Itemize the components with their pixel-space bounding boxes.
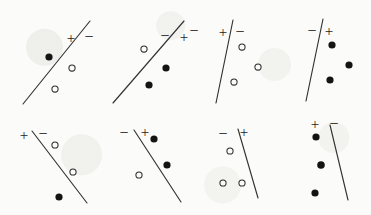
data-point-filled-marker xyxy=(55,193,62,200)
data-point-filled-marker xyxy=(328,41,335,48)
negative-side-label: − xyxy=(189,23,198,39)
negative-side-label: − xyxy=(218,126,227,142)
positive-side-label: + xyxy=(311,117,319,132)
decision-panel xyxy=(134,130,181,202)
positive-side-label: + xyxy=(219,25,227,40)
data-point-filled-marker xyxy=(45,53,52,60)
data-point-open-marker xyxy=(69,65,75,71)
positive-side-label: + xyxy=(141,125,149,140)
decision-boundary-line xyxy=(113,21,184,103)
positive-side-label: + xyxy=(325,24,333,39)
positive-side-label: + xyxy=(240,125,248,140)
negative-side-label: − xyxy=(160,28,169,44)
data-point-open-marker xyxy=(220,180,226,186)
decision-boundary-line xyxy=(134,130,181,202)
data-point-open-marker xyxy=(136,172,142,178)
data-point-open-marker xyxy=(239,44,245,50)
data-point-open-marker xyxy=(231,79,237,85)
data-point-filled-marker xyxy=(311,189,318,196)
data-point-open-marker xyxy=(255,64,261,70)
positive-side-label: + xyxy=(180,30,188,45)
decision-panel xyxy=(23,21,90,104)
data-point-filled-marker xyxy=(150,135,157,142)
data-point-filled-marker xyxy=(163,161,170,168)
data-point-open-marker xyxy=(239,180,245,186)
data-point-open-marker xyxy=(52,86,58,92)
decision-panel xyxy=(113,21,184,103)
positive-side-label: + xyxy=(67,31,75,46)
decision-panel xyxy=(311,125,348,200)
linear-classifier-figure: +−−++−−+−+−−+−++− xyxy=(0,0,371,215)
data-point-filled-marker xyxy=(317,161,325,169)
positive-side-label: + xyxy=(20,128,28,143)
data-point-filled-marker xyxy=(312,133,319,140)
data-point-open-marker xyxy=(141,46,147,52)
data-point-filled-marker xyxy=(162,64,169,71)
data-point-filled-marker xyxy=(326,76,333,83)
negative-side-label: − xyxy=(329,116,338,132)
negative-side-label: − xyxy=(307,23,316,39)
negative-side-label: − xyxy=(84,29,93,45)
data-point-open-marker xyxy=(227,148,233,154)
decision-boundary-line xyxy=(330,125,348,200)
data-point-filled-marker xyxy=(145,81,152,88)
data-point-open-marker xyxy=(70,169,76,175)
data-point-filled-marker xyxy=(345,61,352,68)
negative-side-label: − xyxy=(235,24,244,40)
negative-side-label: − xyxy=(38,126,47,142)
data-point-open-marker xyxy=(52,142,58,148)
negative-side-label: − xyxy=(119,125,128,141)
